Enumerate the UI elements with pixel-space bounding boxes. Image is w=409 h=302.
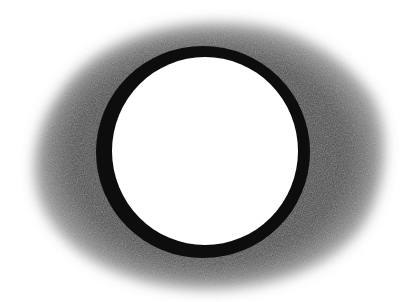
ring-drawing bbox=[0, 0, 409, 302]
ring-center bbox=[112, 57, 298, 245]
drawing-canvas bbox=[0, 0, 409, 302]
